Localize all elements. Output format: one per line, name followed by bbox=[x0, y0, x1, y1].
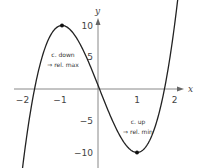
x-tick-label: 1 bbox=[134, 95, 140, 105]
y-axis-label: y bbox=[94, 6, 101, 16]
x-axis-label: x bbox=[188, 84, 193, 94]
cubic-function-chart: x y −2−112 105−5−10 c. down ⇒ rel. max c… bbox=[0, 0, 199, 168]
annotation-min: c. up ⇒ rel. min bbox=[123, 118, 153, 135]
x-axis-arrow-icon bbox=[177, 87, 184, 92]
x-tick-label: −1 bbox=[53, 95, 66, 105]
x-tick-label: −2 bbox=[16, 95, 29, 105]
annotation-max-line2: ⇒ rel. max bbox=[47, 61, 79, 68]
annotation-max: c. down ⇒ rel. max bbox=[47, 51, 79, 68]
y-tick-label: −5 bbox=[80, 116, 93, 126]
x-axis: x bbox=[14, 84, 193, 94]
y-tick-label: −10 bbox=[74, 148, 93, 158]
extremum-point bbox=[135, 151, 139, 155]
extremum-point bbox=[60, 24, 64, 28]
annotation-max-line1: c. down bbox=[51, 51, 75, 58]
y-axis-arrow-icon bbox=[96, 18, 101, 25]
y-axis: y bbox=[94, 6, 101, 168]
annotation-min-line1: c. up bbox=[131, 118, 146, 126]
x-tick-label: 2 bbox=[172, 95, 178, 105]
x-tick-labels: −2−112 bbox=[16, 95, 178, 105]
y-tick-label: 10 bbox=[82, 21, 94, 31]
annotation-min-line2: ⇒ rel. min bbox=[123, 128, 153, 135]
